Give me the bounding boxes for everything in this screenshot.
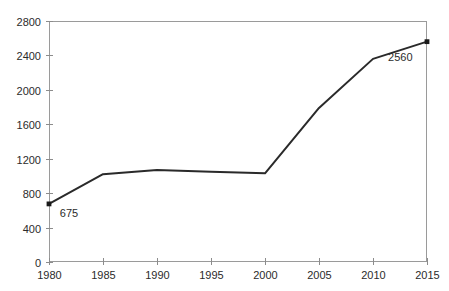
y-tick-label: 800 [23, 188, 41, 200]
y-tick-label: 2400 [17, 50, 41, 62]
data-point-marker [425, 39, 430, 44]
chart-canvas: 040080012001600200024002800 198019851990… [0, 0, 449, 291]
data-point-value-label: 675 [60, 207, 78, 219]
y-tick-label: 1600 [17, 119, 41, 131]
y-tick-label: 0 [35, 257, 41, 269]
x-tick-label: 1980 [37, 269, 61, 281]
data-point-marker [47, 202, 52, 207]
x-tick-label: 2005 [307, 269, 331, 281]
x-tick-label: 2000 [253, 269, 277, 281]
y-tick-label: 400 [23, 223, 41, 235]
x-tick-label: 2015 [415, 269, 439, 281]
y-tick-label: 1200 [17, 154, 41, 166]
line-chart-figure: 040080012001600200024002800 198019851990… [0, 0, 449, 291]
chart-background [0, 0, 449, 291]
x-tick-label: 1985 [91, 269, 115, 281]
x-tick-label: 1995 [199, 269, 223, 281]
y-tick-label: 2800 [17, 16, 41, 28]
data-point-value-label: 2560 [388, 51, 412, 63]
x-tick-label: 1990 [145, 269, 169, 281]
y-tick-label: 2000 [17, 85, 41, 97]
x-tick-label: 2010 [361, 269, 385, 281]
